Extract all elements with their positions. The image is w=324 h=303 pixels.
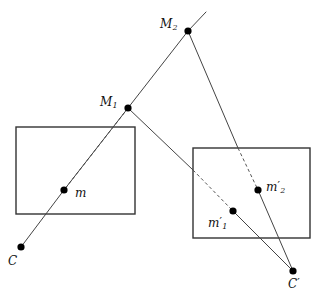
dashed-rays-group — [64, 108, 258, 211]
label-m: m — [75, 187, 86, 199]
label-C-prime: C′ — [288, 277, 300, 290]
solid-rays-group — [21, 12, 293, 271]
ray-M1-to-m — [64, 108, 128, 190]
point-M2 — [184, 27, 191, 34]
label-C-prime-base: C — [288, 277, 297, 291]
left-image-plane — [16, 127, 135, 214]
point-M1 — [124, 104, 131, 111]
label-m2-prime-subscript: 2 — [280, 186, 285, 195]
label-C: C — [8, 255, 17, 267]
ray-M2-extension — [188, 12, 206, 31]
ray-M2-to-right-plane — [188, 31, 238, 148]
point-C — [17, 243, 24, 250]
point-C-prime — [289, 267, 296, 274]
ray-m2prime-to-Cprime — [258, 190, 293, 271]
ray-M1-to-right-plane — [128, 108, 193, 170]
label-m1-prime-base: m — [208, 216, 219, 230]
label-M1-subscript: 1 — [112, 101, 117, 110]
label-M1-base: M — [100, 95, 112, 109]
epipolar-geometry-diagram: M1 M2 m m′1 m′2 C C′ — [0, 0, 324, 303]
ray-m1prime-to-Cprime — [233, 211, 293, 271]
label-m-base: m — [75, 186, 86, 200]
label-m2-prime: m′2 — [266, 180, 285, 195]
point-m2-prime — [254, 186, 261, 193]
label-m1-prime-subscript: 1 — [222, 222, 227, 231]
ray-M2-to-M1 — [128, 31, 188, 108]
point-m — [60, 186, 67, 193]
label-C-base: C — [8, 254, 17, 268]
point-m1-prime — [229, 207, 236, 214]
dashed-M2-into-right-plane-to-m2prime — [238, 148, 258, 190]
label-C-prime-mark: ′ — [297, 276, 300, 289]
diagram-canvas — [0, 0, 324, 303]
label-M1: M1 — [100, 96, 118, 110]
label-m2-prime-base: m — [266, 180, 277, 194]
ray-m-to-C — [21, 190, 64, 247]
dashed-into-right-plane-to-m1prime — [193, 170, 233, 211]
label-M2-subscript: 2 — [172, 23, 177, 32]
label-m1-prime: m′1 — [208, 216, 227, 231]
label-M2: M2 — [160, 18, 178, 32]
label-M2-base: M — [160, 17, 172, 31]
